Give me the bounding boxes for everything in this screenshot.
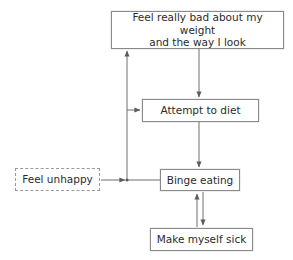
node-binge-eating[interactable]: Binge eating	[160, 169, 240, 191]
node-feel-unhappy[interactable]: Feel unhappy	[15, 168, 100, 191]
node-feel-really-bad[interactable]: Feel really bad about my weight and the …	[111, 11, 284, 49]
node-feel-unhappy-label: Feel unhappy	[18, 173, 97, 186]
node-attempt-to-diet[interactable]: Attempt to diet	[142, 99, 259, 122]
node-attempt-to-diet-label: Attempt to diet	[156, 104, 244, 117]
flowchart-diagram: Feel really bad about my weight and the …	[0, 0, 293, 260]
node-binge-eating-label: Binge eating	[163, 174, 238, 187]
junction-dot	[125, 178, 128, 181]
node-make-myself-sick-label: Make myself sick	[153, 233, 251, 246]
node-feel-really-bad-label: Feel really bad about my weight and the …	[112, 11, 283, 49]
node-make-myself-sick[interactable]: Make myself sick	[150, 228, 253, 251]
